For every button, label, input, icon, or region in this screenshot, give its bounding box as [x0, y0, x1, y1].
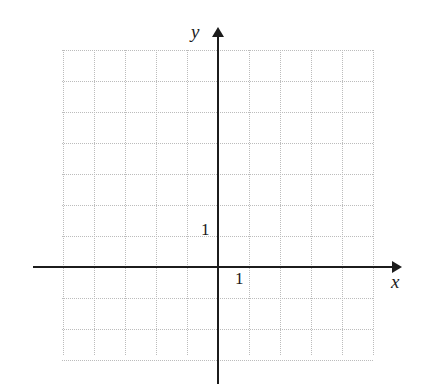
- gridline-vertical: [187, 50, 188, 355]
- gridline-vertical: [249, 50, 250, 355]
- x-axis-unit-tick-label: 1: [235, 270, 244, 287]
- arrow-up-icon: [212, 27, 224, 37]
- gridline-vertical: [63, 50, 64, 355]
- gridline-vertical: [280, 50, 281, 355]
- y-axis-unit-tick-label: 1: [201, 221, 210, 238]
- gridline-vertical: [311, 50, 312, 355]
- coordinate-plane-figure: y x 1 1: [0, 0, 429, 392]
- gridline-vertical: [373, 50, 374, 355]
- x-axis-label: x: [391, 272, 399, 291]
- y-axis-label: y: [191, 22, 199, 41]
- gridline-vertical: [125, 50, 126, 355]
- gridline-vertical: [156, 50, 157, 355]
- gridline-vertical: [342, 50, 343, 355]
- x-axis-line: [33, 266, 398, 268]
- y-axis-line: [217, 29, 219, 384]
- gridline-vertical: [94, 50, 95, 355]
